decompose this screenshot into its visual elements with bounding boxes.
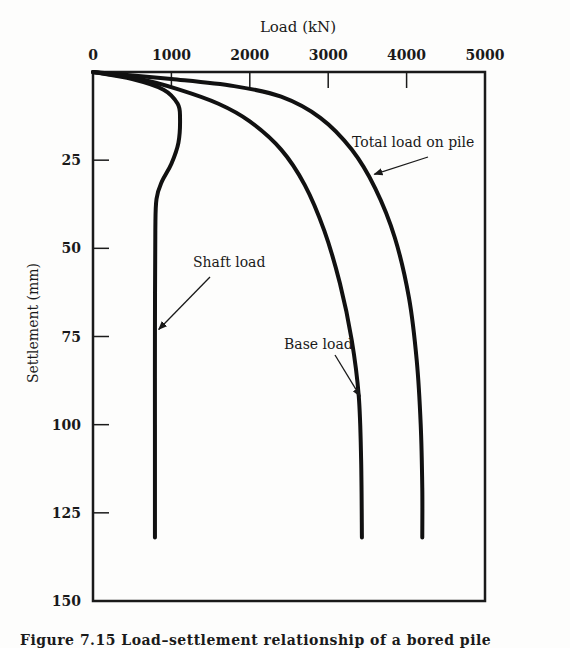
y-tick-label: 125: [52, 505, 81, 521]
annotation-label: Shaft load: [193, 254, 265, 270]
y-tick-label: 100: [52, 417, 81, 433]
x-tick-label: 0: [88, 47, 98, 63]
y-tick-label: 25: [62, 152, 81, 168]
x-tick-label: 4000: [387, 47, 426, 63]
figure-caption: Figure 7.15 Load–settlement relationship…: [20, 632, 491, 648]
x-tick-label: 5000: [466, 47, 505, 63]
series-base-load: [93, 72, 362, 538]
y-tick-label: 75: [62, 329, 81, 345]
y-axis-ticks: 255075100125150: [52, 152, 109, 609]
x-tick-label: 3000: [309, 47, 348, 63]
annotation-label: Total load on pile: [352, 134, 474, 150]
annotation-arrow: [374, 157, 428, 174]
annotations: Total load on pileShaft loadBase load: [159, 134, 475, 396]
y-tick-label: 50: [62, 240, 82, 256]
annotation-label: Base load: [284, 336, 353, 352]
series-shaft-load: [93, 72, 180, 538]
y-tick-label: 150: [52, 593, 81, 609]
x-tick-label: 1000: [152, 47, 191, 63]
annotation-arrow: [159, 277, 210, 329]
x-tick-label: 2000: [230, 47, 269, 63]
